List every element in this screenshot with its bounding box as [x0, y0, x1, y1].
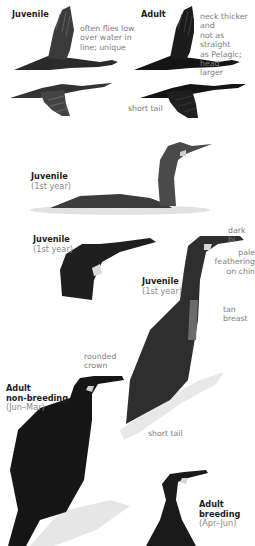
label-flight-juvenile: Juvenile — [12, 10, 49, 20]
label-flight-adult: Adult — [141, 10, 166, 20]
note-short-tail-flight: short tail — [128, 104, 163, 113]
note-dark-bill: dark bi — [228, 226, 255, 245]
juvenile-flying-wings-down-illustration — [10, 83, 112, 116]
label-standing-juvenile: Juvenile (1st year) — [142, 277, 182, 296]
note-short-tail-perched: short tail — [148, 429, 183, 438]
label-title: Adult — [141, 10, 166, 20]
label-adult-breeding: Adult breeding (Apr–Jun) — [199, 500, 240, 529]
note-flight-adult: neck thicker and not as straight as Pela… — [200, 12, 255, 78]
note-rounded-crown: rounded crown — [84, 352, 116, 371]
note-tan-breast: tan breast — [223, 305, 248, 324]
label-adult-nonbreeding: Adult non-breeding (Jun–Mar) — [6, 384, 68, 413]
note-pale-chin: pale feathering on chin — [214, 248, 255, 276]
label-head-juvenile: Juvenile (1st year) — [33, 235, 73, 254]
label-title: Juvenile — [12, 10, 49, 20]
note-flight-juvenile: often flies low over water in line; uniq… — [80, 24, 134, 52]
label-swimming-juvenile: Juvenile (1st year) — [31, 172, 71, 191]
